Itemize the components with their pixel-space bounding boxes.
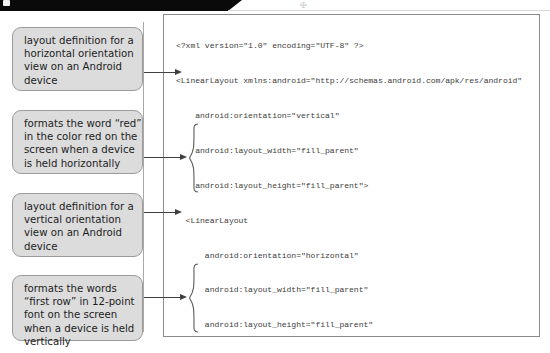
callout-line: horizontal orientation (24, 47, 133, 60)
callout-box-vertical-layout: layout definition for a vertical orienta… (12, 193, 143, 257)
callout-line: view on an Android (24, 226, 133, 239)
callout-line: “first row” in 12-point (24, 295, 133, 308)
connector-arrow-4 (180, 294, 187, 300)
callout-line: layout definition for a (24, 34, 133, 47)
callout-line: view on an Android (24, 60, 133, 73)
page-corner-mark-icon (3, 0, 10, 6)
connector-line-1 (143, 72, 176, 73)
callout-line: device (24, 240, 133, 253)
crop-tick-icon: ✠ (300, 2, 307, 9)
callout-line: device (24, 74, 133, 87)
callout-line: formats the words (24, 282, 133, 295)
connector-arrow-2 (180, 154, 187, 160)
callout-box-red-textview: formats the word “red” in the color red … (12, 110, 143, 174)
connector-line-3 (143, 212, 176, 213)
connector-rail-left (143, 22, 144, 332)
header-rule (228, 10, 550, 11)
connector-arrow-1 (175, 69, 182, 75)
connector-line-2 (143, 157, 181, 158)
callout-line: is held horizontally (24, 157, 133, 170)
callout-line: font on the screen (24, 308, 133, 321)
code-line: android:orientation="vertical" (176, 110, 548, 122)
brace-textview-vertical (188, 263, 200, 333)
code-line: <LinearLayout (176, 215, 548, 227)
callout-line: screen when a device (24, 143, 133, 156)
connector-line-4 (143, 297, 181, 298)
code-line: <?xml version="1.0" encoding="UTF-8" ?> (176, 40, 548, 52)
callout-line: vertical orientation (24, 213, 133, 226)
callout-line: in the color red on the (24, 130, 133, 143)
code-line: android:orientation="horizontal" (176, 250, 548, 262)
brace-textview-horizontal (188, 123, 200, 193)
callout-box-first-row-textview: formats the words “first row” in 12-poin… (12, 275, 143, 341)
callout-line: vertically (24, 335, 133, 348)
code-line: <LinearLayout xmlns:android="http://sche… (176, 75, 548, 87)
code-line: android:layout_height="fill_parent" (176, 319, 548, 331)
code-listing: <?xml version="1.0" encoding="UTF-8" ?> … (176, 17, 548, 353)
top-black-banner (0, 0, 228, 11)
callout-line: layout definition for a (24, 200, 133, 213)
callout-line: formats the word “red” (24, 117, 133, 130)
code-line: android:layout_height="fill_parent"> (176, 180, 548, 192)
connector-arrow-3 (175, 209, 182, 215)
code-line: android:layout_width="fill_parent" (176, 145, 548, 157)
callout-box-horizontal-layout: layout definition for a horizontal orien… (12, 27, 143, 91)
code-line: android:layout_width="fill_parent" (176, 284, 548, 296)
callout-line: when a device is held (24, 322, 133, 335)
